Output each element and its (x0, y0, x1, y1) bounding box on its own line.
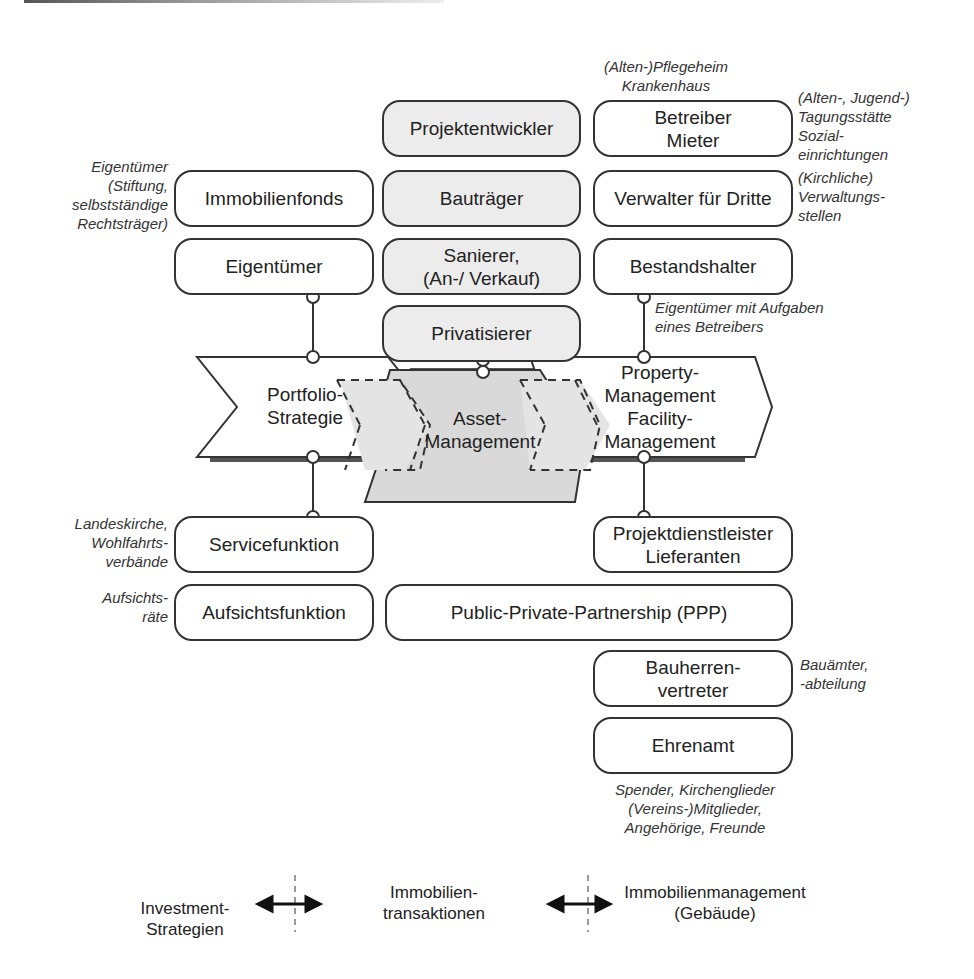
label-asset-management: Asset- Management (410, 407, 550, 453)
label-portfolio-strategie: Portfolio- Strategie (255, 383, 355, 429)
box-sanierer: Sanierer, (An-/ Verkauf) (382, 238, 581, 295)
box-projektentwickler: Projektentwickler (382, 100, 581, 157)
note-eigentuemer-aufgaben: Eigentümer mit Aufgaben eines Betreibers (655, 298, 824, 336)
box-projektdienstleister: Projektdienstleister Lieferanten (593, 516, 793, 573)
note-bauaemter: Bauämter, -abteilung (800, 655, 868, 693)
note-landeskirche: Landeskirche, Wohlfahrts- verbände (40, 514, 168, 571)
box-bestandshalter: Bestandshalter (593, 238, 793, 295)
label-property-facility-management: Property- Management Facility- Managemen… (585, 361, 735, 453)
box-aufsichtsfunktion: Aufsichtsfunktion (174, 584, 374, 641)
note-tagungsstaette: (Alten-, Jugend-) Tagungsstätte Sozial- … (798, 88, 910, 164)
axis-immobilienmanagement: Immobilienmanagement (Gebäude) (605, 882, 825, 924)
note-kirchliche: (Kirchliche) Verwaltungs- stellen (798, 168, 885, 225)
note-aufsichtsraete: Aufsichts- räte (40, 588, 168, 626)
axis-immobilientransaktionen: Immobilien- transaktionen (318, 882, 550, 924)
box-verwalter: Verwalter für Dritte (593, 170, 793, 227)
box-immobilienfonds: Immobilienfonds (174, 170, 374, 227)
box-ehrenamt: Ehrenamt (593, 717, 793, 774)
box-bautraeger: Bauträger (382, 170, 581, 227)
box-eigentuemer: Eigentümer (174, 238, 374, 295)
box-servicefunktion: Servicefunktion (174, 516, 374, 573)
axis-investment-strategien: Investment-Strategien (110, 898, 260, 940)
note-eigentuemer-stiftung: Eigentümer (Stiftung, selbstständige Rec… (40, 157, 168, 233)
box-privatisierer: Privatisierer (382, 305, 581, 362)
box-ppp: Public-Private-Partnership (PPP) (385, 584, 793, 641)
box-betreiber-mieter: Betreiber Mieter (593, 100, 793, 157)
box-bauherrenvertreter: Bauherren- vertreter (593, 650, 793, 707)
note-spender: Spender, Kirchenglieder (Vereins-)Mitgli… (560, 780, 830, 837)
note-pflegeheim: (Alten-)Pflegeheim Krankenhaus (586, 57, 746, 95)
